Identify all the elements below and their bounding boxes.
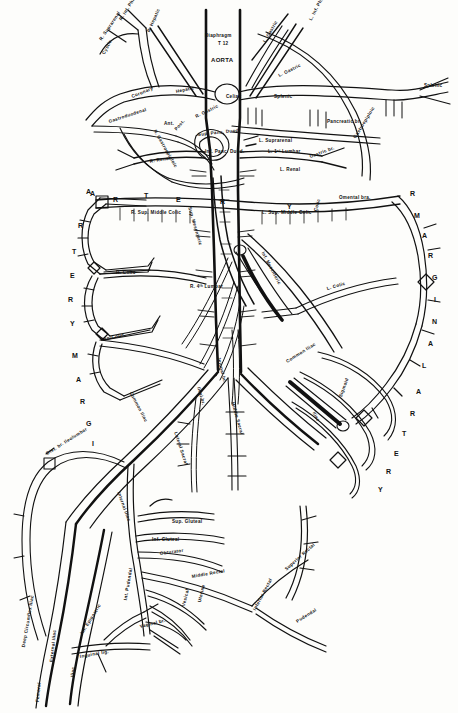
arcade-letter-spine_letters_top-3: E — [176, 196, 181, 203]
sigmoid-arcades — [286, 352, 396, 498]
vessel-map-svg — [0, 0, 458, 713]
arcade-letter-spine_letters_right-13: R — [386, 468, 391, 475]
arcade-letter-spine_letters_right-2: A — [422, 232, 427, 239]
arcade-letter-spine_letters_left-5: Y — [70, 320, 75, 327]
right-colic-group — [100, 270, 206, 370]
arcade-letter-spine_letters_left-1: R — [78, 222, 83, 229]
arcade-letter-spine_letters_left-6: M — [72, 352, 78, 359]
arcade-letter-spine_letters_right-0: R — [410, 190, 415, 197]
arcade-letter-spine_letters_right-10: R — [410, 410, 415, 417]
arcade-letter-spine_letters_right-11: T — [402, 430, 406, 437]
arcade-letter-spine_letters_top-0: A — [90, 190, 95, 197]
arcade-letter-spine_letters_left-10: I — [92, 440, 94, 447]
superior-mesenteric-artery — [213, 176, 254, 306]
external-iliac-femoral — [46, 524, 104, 706]
arcade-letter-spine_letters_top-1: R — [113, 196, 118, 203]
arcade-letter-spine_letters_right-8: L — [422, 362, 426, 369]
middle-sacral-artery — [226, 378, 246, 490]
superior-rectal-artery — [286, 506, 318, 600]
arcade-letter-spine_letters_left-2: T — [72, 248, 76, 255]
lumbar-segmental-branches — [190, 170, 256, 346]
inferior-mesenteric-artery — [242, 234, 342, 352]
colic-vasa-recta — [120, 208, 346, 224]
middle-colic-line — [96, 196, 400, 212]
epigastric-circumflex — [98, 604, 158, 672]
pancreatic-branches — [248, 100, 402, 128]
arcade-letter-spine_letters_top-2: T — [144, 192, 148, 199]
arcade-letter-spine_letters_top-4: R — [220, 198, 225, 205]
anatomy-diagram-canvas: DiaphragmT 12AORTAR. Inf. PhrenicR. Supr… — [0, 0, 458, 713]
arcade-letter-spine_letters_right-4: G — [432, 274, 437, 281]
arcade-letter-spine_letters_right-12: E — [394, 450, 399, 457]
arcade-letter-spine_letters_left-4: R — [68, 296, 73, 303]
arcade-letter-spine_letters_left-9: G — [86, 420, 91, 427]
arcade-letter-spine_letters_right-6: N — [432, 318, 437, 325]
arcade-letter-spine_letters_right-14: Y — [378, 486, 383, 493]
internal-iliac-group — [127, 464, 326, 654]
left-colic-group — [262, 278, 398, 318]
arcade-letter-spine_letters_left-8: R — [80, 398, 85, 405]
arcade-letter-spine_letters_left-3: E — [70, 272, 75, 279]
arcade-letter-spine_letters_top-5: Y — [287, 203, 292, 210]
arcade-letter-spine_letters_right-1: M — [414, 212, 420, 219]
arcade-letter-spine_letters_right-7: A — [428, 340, 433, 347]
arcade-letter-spine_letters_right-9: A — [416, 388, 421, 395]
inguinal-ligament — [72, 643, 150, 654]
renal-arteries — [116, 136, 346, 170]
arcade-letter-spine_letters_left-7: A — [76, 376, 81, 383]
arcade-letter-spine_letters_right-3: R — [428, 252, 433, 259]
aorta-trunk — [206, 10, 241, 372]
arcade-letter-spine_letters_right-5: I — [434, 296, 436, 303]
marginal-arcade-left — [78, 196, 162, 400]
